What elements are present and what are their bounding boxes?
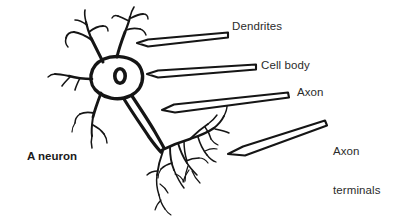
label-dendrites: Dendrites — [232, 20, 282, 33]
label-axon: Axon — [297, 86, 324, 99]
axon-terminal-branches — [147, 106, 229, 215]
axon-trunk — [124, 96, 164, 152]
figure-caption: A neuron — [27, 150, 77, 162]
label-axon-terminals-line2: terminals — [333, 184, 381, 197]
arrow-axon-terminals — [228, 121, 327, 156]
label-axon-terminals-line1: Axon — [333, 145, 381, 158]
neuron-diagram-figure: Dendrites Cell body Axon Axon terminals … — [0, 0, 405, 223]
arrow-axon — [162, 93, 289, 113]
label-cell-body: Cell body — [261, 59, 310, 72]
nucleus — [115, 69, 125, 83]
label-axon-terminals: Axon terminals — [333, 119, 381, 223]
arrow-cell-body — [147, 65, 256, 78]
arrow-dendrites — [137, 33, 228, 47]
cell-body-soma — [91, 57, 143, 99]
